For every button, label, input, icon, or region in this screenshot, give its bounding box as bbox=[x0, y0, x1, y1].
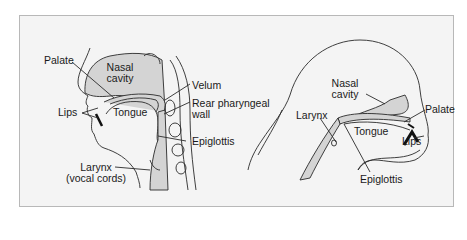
label-palate-left: Palate bbox=[44, 55, 74, 66]
label-nasal-cavity-right: Nasal cavity bbox=[325, 78, 365, 100]
label-larynx-left: Larynx (vocal cords) bbox=[66, 162, 126, 184]
label-lips-right: Lips bbox=[402, 136, 421, 147]
label-nasal-r-line2: cavity bbox=[325, 89, 365, 100]
label-rear-line2: wall bbox=[192, 109, 270, 120]
label-tongue-left: Tongue bbox=[113, 107, 147, 118]
label-lips-left: Lips bbox=[58, 107, 77, 118]
label-epiglottis-right: Epiglottis bbox=[360, 174, 403, 185]
chimp-head-drawing bbox=[248, 40, 428, 180]
label-velum: Velum bbox=[192, 80, 221, 91]
label-nasal-line2: cavity bbox=[100, 73, 140, 84]
label-rear-pharyngeal-wall: Rear pharyngeal wall bbox=[192, 98, 270, 120]
label-tongue-right: Tongue bbox=[354, 126, 388, 137]
label-larynx-line2: (vocal cords) bbox=[66, 173, 126, 184]
label-larynx-right: Larynx bbox=[296, 110, 328, 121]
label-palate-right: Palate bbox=[425, 104, 455, 115]
label-epiglottis-left: Epiglottis bbox=[192, 136, 235, 147]
label-nasal-cavity-left: Nasal cavity bbox=[100, 62, 140, 84]
